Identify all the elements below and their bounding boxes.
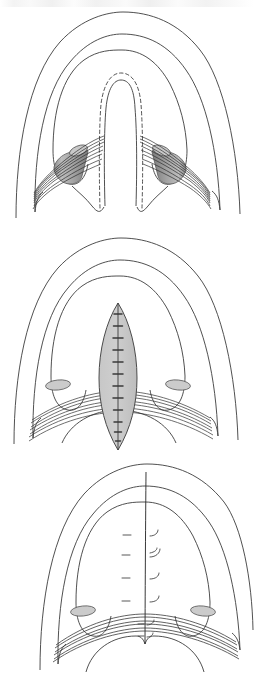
papillary-stump-left-p3[interactable] (70, 605, 96, 618)
panel-1-incision-plan (16, 12, 240, 218)
papillary-muscle-right-p1[interactable] (151, 143, 186, 184)
arch-contour-inner-p1 (53, 50, 187, 150)
panel-3-closed-suture-line (40, 464, 253, 672)
suture-line-p3[interactable] (145, 472, 146, 644)
central-segment-outline-p1 (104, 80, 136, 206)
papillary-stump-right-p3[interactable] (190, 605, 216, 618)
suture-knot-4 (122, 596, 159, 602)
panel-2-resected-segment (14, 238, 238, 450)
illustration-canvas (0, 0, 254, 678)
suture-knot-3 (122, 573, 159, 579)
arch-contour-outer-p3 (40, 464, 253, 670)
suture-knot-1 (123, 530, 158, 536)
suture-knot-2 (122, 548, 160, 557)
chordae-band-p3 (53, 614, 239, 662)
arch-contour-inner-p3 (76, 502, 210, 602)
figure-root: Mitral valve repair operative sequence V… (0, 0, 254, 678)
papillary-stump-left-p2[interactable] (45, 379, 71, 392)
arch-contour-middle-p1 (35, 34, 220, 212)
free-edge-scallop-p1 (72, 186, 168, 211)
papillary-stump-right-p2[interactable] (165, 379, 191, 392)
